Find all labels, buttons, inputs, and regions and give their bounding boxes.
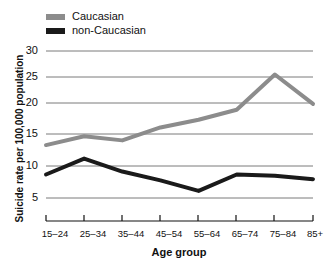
series-line-non-caucasian <box>46 159 313 191</box>
chart-figure: Caucasian non-Caucasian Suicide rate per… <box>0 0 335 266</box>
plot-area-wrapper: Suicide rate per 100,000 population Age … <box>0 0 335 266</box>
x-axis-line <box>46 215 313 221</box>
chart-canvas <box>0 0 335 266</box>
